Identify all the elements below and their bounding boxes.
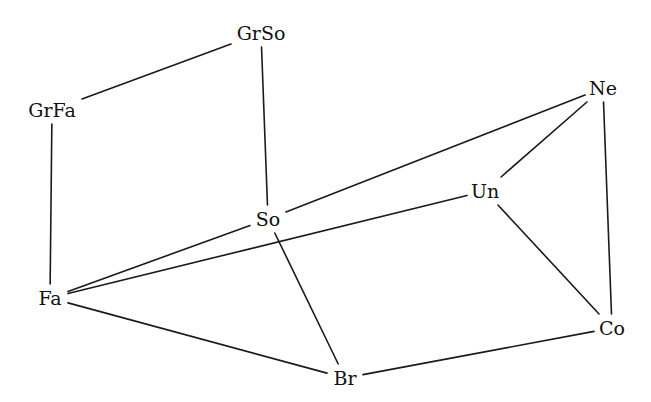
node-grso: GrSo	[237, 22, 286, 44]
node-co: Co	[599, 317, 625, 339]
node-label-grso: GrSo	[237, 22, 286, 44]
edges-layer	[50, 44, 611, 375]
edge-so-ne	[286, 95, 585, 212]
node-label-br: Br	[333, 367, 357, 389]
edge-grso-so	[262, 47, 268, 205]
edge-ne-un	[501, 102, 587, 177]
node-grfa: GrFa	[28, 99, 75, 121]
edge-fa-br	[68, 303, 327, 373]
node-label-un: Un	[471, 180, 499, 202]
edge-grfa-fa	[50, 124, 52, 284]
node-label-fa: Fa	[38, 287, 61, 309]
edge-so-br	[275, 233, 338, 364]
node-ne: Ne	[589, 77, 617, 99]
node-label-co: Co	[599, 317, 625, 339]
node-fa: Fa	[38, 287, 61, 309]
node-label-grfa: GrFa	[28, 99, 75, 121]
node-br: Br	[333, 367, 357, 389]
lattice-diagram: GrSoGrFaNeUnSoFaCoBr	[0, 0, 651, 402]
edge-grso-grfa	[82, 44, 231, 99]
node-so: So	[256, 208, 280, 230]
node-un: Un	[471, 180, 499, 202]
node-label-so: So	[256, 208, 280, 230]
nodes-layer: GrSoGrFaNeUnSoFaCoBr	[28, 22, 625, 389]
edge-ne-co	[604, 102, 612, 314]
edge-so-fa	[68, 226, 250, 292]
node-label-ne: Ne	[589, 77, 617, 99]
edge-un-co	[498, 205, 599, 314]
edge-br-co	[363, 331, 594, 374]
